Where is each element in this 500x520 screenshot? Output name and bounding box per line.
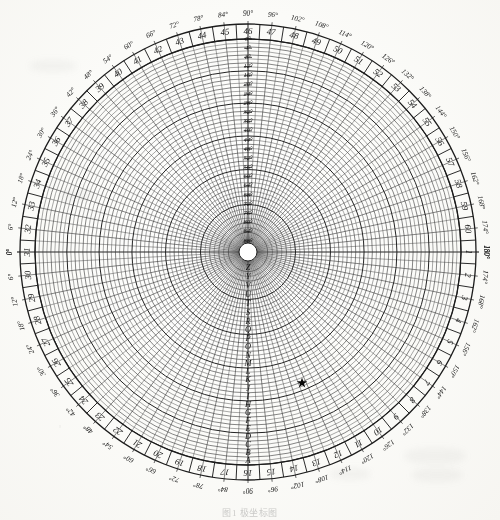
radial-spoke-minor <box>151 62 244 244</box>
band-divider <box>71 386 83 395</box>
band-divider <box>236 465 237 480</box>
band-divider <box>438 349 451 356</box>
degree-tick <box>28 181 31 182</box>
degree-tick <box>93 421 95 423</box>
outer-scale-label: 59 <box>459 201 471 212</box>
elevation-scale-label: 88° <box>243 237 253 244</box>
degree-scale-label: 54° <box>101 53 114 65</box>
outer-scale-label: 29 <box>25 292 37 303</box>
degree-scale-label: 18° <box>16 320 27 332</box>
degree-tick <box>465 181 468 182</box>
outer-scale-label: 57 <box>444 156 457 169</box>
degree-scale-label: 48° <box>82 68 95 81</box>
elevation-scale-label: 32° <box>242 108 253 115</box>
radial-spoke-minor <box>256 136 427 247</box>
elevation-scale-label: 56° <box>243 163 253 170</box>
elevation-scale-label: 16° <box>243 71 253 78</box>
radial-spoke-minor <box>49 255 239 328</box>
band-divider <box>399 403 410 414</box>
elevation-scale-label: 44° <box>243 136 253 143</box>
band-divider <box>144 442 151 455</box>
radial-spoke <box>253 259 382 436</box>
outer-scale-label: 20 <box>151 448 164 461</box>
outer-scale-label: 9 <box>391 411 401 422</box>
band-divider <box>87 403 98 414</box>
band-divider <box>324 39 329 53</box>
degree-scale-label: 150° <box>448 125 462 141</box>
elevation-scale-label: 28° <box>243 99 253 106</box>
degree-scale-label: 168° <box>476 195 487 210</box>
radial-spoke-minor <box>49 176 239 249</box>
band-divider <box>454 193 468 197</box>
radial-spoke <box>114 259 243 436</box>
elevation-scale-label: 60° <box>243 172 253 179</box>
radial-spoke-minor <box>252 260 345 442</box>
outer-scale-label: 58 <box>453 178 465 190</box>
outer-scale-label: 2 <box>463 272 473 278</box>
degree-scale-label: 96° <box>267 485 278 494</box>
band-divider <box>345 442 352 455</box>
band-divider <box>45 349 58 356</box>
band-divider <box>364 61 372 74</box>
degree-tick <box>445 137 448 139</box>
outer-scale-label: 18 <box>196 463 207 475</box>
radial-spoke-minor <box>256 257 427 368</box>
degree-tick <box>28 322 31 323</box>
band-divider <box>281 462 283 477</box>
elevation-scale-label: 4° <box>245 44 251 51</box>
elevation-scale-label: 72° <box>243 200 253 207</box>
degree-scale-label: 6° <box>7 273 16 280</box>
band-divider <box>414 386 426 395</box>
band-divider <box>303 32 307 46</box>
degree-scale-label: 48° <box>82 423 95 436</box>
band-divider <box>281 27 283 42</box>
radial-spoke <box>255 118 432 247</box>
degree-scale-label: 18° <box>16 172 27 184</box>
outer-scale-label: 12 <box>331 448 344 461</box>
band-divider <box>87 91 98 102</box>
elevation-scale-label: 48° <box>243 145 253 152</box>
radial-spoke-minor <box>69 257 240 368</box>
degree-scale-label: 162° <box>469 318 481 334</box>
radial-spoke <box>257 253 475 276</box>
outer-scale-label: 32 <box>22 223 33 234</box>
degree-scale-label: 126° <box>380 438 396 453</box>
degree-scale-label: 120° <box>359 452 375 466</box>
outer-scale-label: 50 <box>332 43 345 56</box>
degree-tick <box>417 97 419 99</box>
band-divider <box>20 240 35 241</box>
degree-tick <box>177 469 178 472</box>
degree-scale-label: 138° <box>417 404 432 420</box>
band-divider <box>458 285 473 287</box>
band-divider <box>447 328 461 333</box>
band-divider <box>124 431 132 444</box>
outer-scale-label: 4 <box>453 317 464 325</box>
degree-scale-label: 150° <box>447 363 461 379</box>
radial-spoke-minor <box>256 176 446 249</box>
degree-tick <box>382 436 384 438</box>
degree-scale-label: 36° <box>49 386 62 400</box>
radial-spoke-minor <box>58 256 240 349</box>
elevation-scale-label: 40° <box>243 126 253 133</box>
band-divider <box>212 27 214 42</box>
band-divider <box>427 368 440 376</box>
elevation-scale-label: 8° <box>245 53 251 60</box>
degree-tick <box>382 65 384 67</box>
degree-tick <box>445 366 448 368</box>
radial-spoke <box>253 68 382 245</box>
band-divider <box>28 193 42 197</box>
elevation-scale-label: 0° <box>245 35 251 42</box>
degree-scale-label: 30° <box>35 126 48 140</box>
degree-scale-label: 102° <box>290 14 305 25</box>
band-divider <box>144 49 151 62</box>
radial-spoke-minor <box>256 255 446 328</box>
radial-spoke-minor <box>254 258 398 402</box>
band-divider <box>427 128 440 136</box>
degree-tick <box>48 137 51 139</box>
degree-scale-label: 114° <box>337 463 352 476</box>
outer-scale-label: 31 <box>22 248 32 258</box>
degree-scale-label: 60° <box>122 452 135 464</box>
outer-scale-label: 1 <box>464 250 474 254</box>
degree-scale-label: 174° <box>480 270 489 285</box>
outer-scale-label: 13 <box>310 457 322 469</box>
